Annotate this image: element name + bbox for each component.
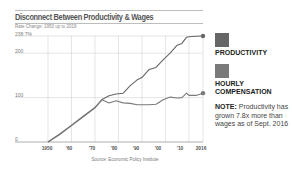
x-axis-label-80: '80	[111, 145, 117, 151]
compensation-swatch	[215, 64, 229, 78]
x-axis-label-90: '90	[133, 145, 139, 151]
x-axis-label-00: '00	[155, 145, 161, 151]
x-axis-label-60: '60	[66, 145, 72, 151]
source-note: Source: Economic Policy Institute	[92, 157, 159, 162]
chart-grid	[15, 36, 203, 142]
x-axis-label-10: '10	[177, 145, 183, 151]
legend: PRODUCTIVITY HOURLY COMPENSATION NOTE: P…	[215, 33, 290, 129]
x-axis-label-70: '70	[89, 145, 95, 151]
legend-label-productivity: PRODUCTIVITY	[215, 49, 290, 57]
x-axis-label-2016: 2016	[196, 145, 207, 151]
x-axis-label-1950: 1950	[42, 145, 53, 151]
note-label: NOTE:	[215, 103, 237, 110]
productivity-swatch	[215, 33, 229, 47]
legend-label-compensation: HOURLY COMPENSATION	[215, 80, 275, 96]
note-text: NOTE: Productivity has grown 7.8x more t…	[215, 103, 290, 129]
